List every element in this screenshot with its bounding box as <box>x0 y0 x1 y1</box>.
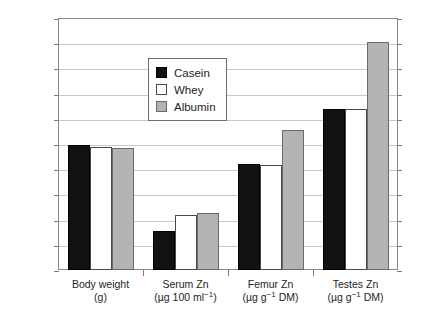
x-axis-category-label: Body weight(g) <box>72 278 129 304</box>
legend-swatch-albumin <box>156 101 167 112</box>
bar-whey <box>175 215 197 270</box>
bar-group <box>238 18 304 270</box>
x-axis-category-label: Testes Zn(µg g−1 DM) <box>327 278 383 304</box>
unit-exponent: −1 <box>204 290 213 299</box>
category-name: Testes Zn <box>333 278 379 290</box>
y-axis-tick <box>54 271 59 272</box>
bar-group <box>68 18 134 270</box>
bar-whey <box>260 165 282 270</box>
legend-item-casein: Casein <box>156 64 216 81</box>
category-separator-tick <box>228 270 229 276</box>
bar-albumin <box>197 213 219 270</box>
category-separator-tick <box>143 270 144 276</box>
grouped-bar-chart: 020406080100120140160180200 Body weight(… <box>0 0 428 322</box>
legend-item-albumin: Albumin <box>156 98 216 115</box>
category-name: Body weight <box>72 278 129 290</box>
legend-swatch-whey <box>156 84 167 95</box>
y-axis-tick-right <box>397 271 402 272</box>
bar-whey <box>345 109 367 270</box>
bar-casein <box>238 164 260 270</box>
category-unit: (g) <box>72 291 129 304</box>
bar-casein <box>68 145 90 270</box>
legend-item-whey: Whey <box>156 81 216 98</box>
category-separator-tick <box>313 270 314 276</box>
legend-swatch-casein <box>156 67 167 78</box>
bar-albumin <box>282 130 304 270</box>
unit-exponent: −1 <box>267 290 276 299</box>
unit-exponent: −1 <box>352 290 361 299</box>
legend-label: Albumin <box>174 101 216 113</box>
legend-label: Whey <box>174 84 203 96</box>
category-name: Femur Zn <box>248 278 294 290</box>
bar-group <box>323 18 389 270</box>
bar-group <box>153 18 219 270</box>
bar-albumin <box>112 148 134 270</box>
bar-whey <box>90 147 112 270</box>
x-axis-category-label: Serum Zn(µg 100 ml−1) <box>154 278 216 304</box>
bar-casein <box>153 231 175 270</box>
x-axis-category-label: Femur Zn(µg g−1 DM) <box>242 278 298 304</box>
category-name: Serum Zn <box>162 278 208 290</box>
category-unit: (µg g−1 DM) <box>327 291 383 304</box>
category-unit: (µg g−1 DM) <box>242 291 298 304</box>
bar-casein <box>323 109 345 270</box>
category-unit: (µg 100 ml−1) <box>154 291 216 304</box>
legend-label: Casein <box>174 67 210 79</box>
bars-layer <box>58 18 398 270</box>
bar-albumin <box>367 42 389 270</box>
chart-legend: CaseinWheyAlbumin <box>148 58 227 121</box>
